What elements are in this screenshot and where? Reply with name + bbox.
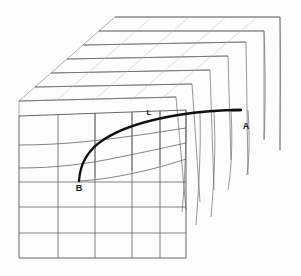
layered-grid-diagram: A B L [0,0,301,276]
label-curve-l: L [147,108,152,117]
label-point-a: A [243,121,250,131]
figure-root: A B L [0,0,301,276]
label-point-b: B [76,183,83,193]
diagram-background [0,0,301,276]
